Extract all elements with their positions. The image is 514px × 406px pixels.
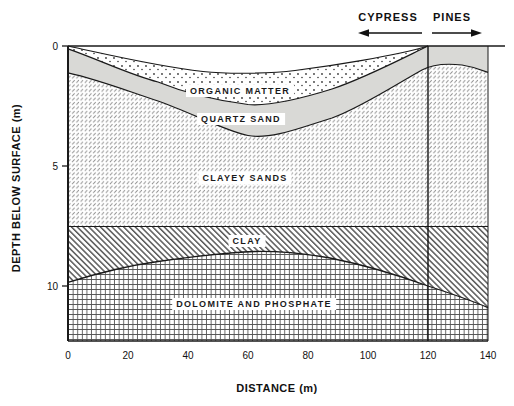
clayey-sands-label: CLAYEY SANDS	[198, 172, 291, 184]
x-tick-60: 60	[242, 350, 253, 361]
x-tick-20: 20	[122, 350, 133, 361]
cypress-zone-label: CYPRESS	[358, 11, 418, 23]
clay-label: CLAY	[229, 235, 266, 247]
quartz-sand-label: QUARTZ SAND	[197, 113, 285, 125]
cross-section-drawing	[0, 0, 514, 406]
organic-matter-label: ORGANIC MATTER	[186, 85, 294, 97]
y-tick-0: 0	[52, 41, 58, 52]
x-tick-40: 40	[182, 350, 193, 361]
cross-section-figure: CYPRESS PINES ORGANIC MATTER QUARTZ SAND…	[0, 0, 514, 406]
x-tick-0: 0	[65, 350, 71, 361]
x-tick-100: 100	[360, 350, 377, 361]
x-tick-140: 140	[480, 350, 497, 361]
x-tick-120: 120	[420, 350, 437, 361]
y-tick-5: 5	[52, 161, 58, 172]
pines-arrow	[432, 29, 482, 37]
y-tick-10: 10	[47, 281, 58, 292]
x-tick-80: 80	[302, 350, 313, 361]
y-axis-title: DEPTH BELOW SURFACE (m)	[10, 104, 22, 273]
x-axis-title: DISTANCE (m)	[236, 382, 318, 394]
dolomite-phosphate-label: DOLOMITE AND PHOSPHATE	[172, 298, 336, 310]
cypress-arrow	[358, 29, 422, 37]
pines-zone-label: PINES	[433, 11, 471, 23]
